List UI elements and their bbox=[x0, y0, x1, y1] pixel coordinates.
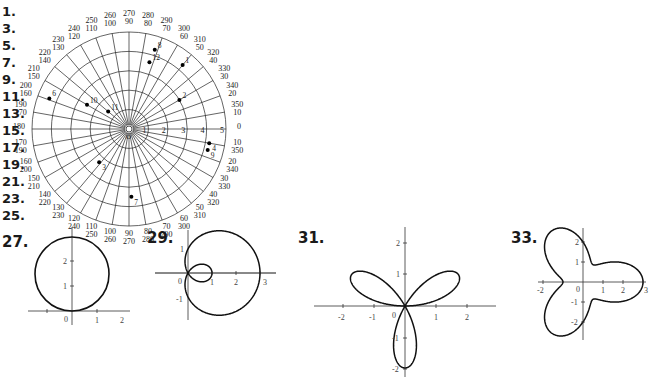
plotted-point bbox=[129, 195, 133, 199]
angle-label: 160200 bbox=[20, 157, 32, 174]
tick-label: 0 bbox=[178, 277, 182, 286]
svg-text:220: 220 bbox=[39, 198, 51, 207]
tick-label: 2 bbox=[63, 257, 67, 266]
angle-label: 28080 bbox=[142, 11, 154, 28]
svg-text:80: 80 bbox=[144, 19, 152, 28]
angle-label: 10350 bbox=[231, 138, 243, 155]
point-label: 2 bbox=[182, 91, 186, 100]
angle-label: 250110 bbox=[85, 16, 97, 33]
angle-label: 170190 bbox=[15, 138, 27, 155]
angle-label: 140220 bbox=[39, 190, 51, 207]
angle-label: 180 bbox=[13, 122, 25, 131]
angle-label: 29070 bbox=[161, 16, 173, 33]
svg-text:90: 90 bbox=[125, 17, 133, 26]
point-label: 7 bbox=[134, 198, 138, 207]
svg-text:50: 50 bbox=[196, 43, 204, 52]
radius-tick-label: 5 bbox=[220, 126, 224, 135]
point-label: 10 bbox=[90, 96, 98, 105]
svg-text:10: 10 bbox=[233, 108, 241, 117]
svg-text:160: 160 bbox=[20, 89, 32, 98]
tick-label: 2 bbox=[621, 286, 625, 295]
svg-text:40: 40 bbox=[209, 56, 217, 65]
tick-label: 2 bbox=[575, 238, 579, 247]
tick-label: -1 bbox=[392, 334, 399, 343]
plotted-point bbox=[177, 98, 181, 102]
svg-text:340: 340 bbox=[226, 165, 238, 174]
tick-label: 2 bbox=[120, 316, 124, 325]
point-label: 9 bbox=[211, 151, 215, 160]
svg-text:320: 320 bbox=[207, 198, 219, 207]
svg-text:200: 200 bbox=[20, 165, 32, 174]
svg-text:180: 180 bbox=[13, 122, 25, 131]
svg-text:130: 130 bbox=[52, 43, 64, 52]
plotted-point bbox=[207, 141, 211, 145]
angle-label: 0 bbox=[237, 122, 241, 131]
angle-label: 240120 bbox=[68, 24, 80, 41]
plotted-point bbox=[47, 96, 51, 100]
tick-label: -2 bbox=[338, 313, 345, 322]
svg-text:20: 20 bbox=[228, 89, 236, 98]
svg-text:70: 70 bbox=[163, 24, 171, 33]
angle-label: 34020 bbox=[226, 81, 238, 98]
plotted-point bbox=[153, 48, 157, 52]
plotted-point bbox=[147, 60, 151, 64]
angle-label: 220140 bbox=[39, 48, 51, 65]
svg-text:330: 330 bbox=[218, 182, 230, 191]
tick-label: -1 bbox=[369, 313, 376, 322]
svg-text:140: 140 bbox=[39, 56, 51, 65]
angle-label: 130230 bbox=[52, 203, 64, 220]
plotted-point bbox=[206, 148, 210, 152]
angle-label: 30330 bbox=[218, 174, 230, 191]
svg-text:120: 120 bbox=[68, 32, 80, 41]
svg-text:350: 350 bbox=[231, 146, 243, 155]
point-label: 3 bbox=[102, 163, 106, 172]
tick-label: 1 bbox=[575, 258, 579, 267]
tick-label: -2 bbox=[537, 286, 544, 295]
svg-text:230: 230 bbox=[52, 211, 64, 220]
angle-label: 150210 bbox=[28, 174, 40, 191]
tick-label: 2 bbox=[465, 313, 469, 322]
svg-text:30: 30 bbox=[220, 72, 228, 81]
tick-label: -1 bbox=[571, 298, 578, 307]
angle-label: 30060 bbox=[178, 24, 190, 41]
tick-label: 0 bbox=[576, 285, 580, 294]
point-label: 1 bbox=[186, 56, 190, 65]
svg-text:310: 310 bbox=[194, 211, 206, 220]
svg-text:170: 170 bbox=[15, 108, 27, 117]
svg-text:150: 150 bbox=[28, 72, 40, 81]
tick-label: 3 bbox=[644, 286, 648, 295]
angle-label: 210150 bbox=[28, 64, 40, 81]
tick-label: 1 bbox=[95, 316, 99, 325]
angle-label: 27090 bbox=[123, 9, 135, 26]
angle-label: 230130 bbox=[52, 35, 64, 52]
angle-label: 32040 bbox=[207, 48, 219, 65]
tick-label: 1 bbox=[63, 282, 67, 291]
figure-29-plot: 0 1 2 3 1 -1 bbox=[140, 225, 300, 355]
angle-label: 20340 bbox=[226, 157, 238, 174]
tick-label: 0 bbox=[64, 315, 68, 324]
plotted-point bbox=[97, 160, 101, 164]
tick-label: -2 bbox=[392, 365, 399, 374]
tick-label: 1 bbox=[396, 270, 400, 279]
svg-text:190: 190 bbox=[15, 146, 27, 155]
figure-33-plot: -2 0 1 2 3 2 1 -1 -2 bbox=[500, 225, 651, 355]
plotted-point bbox=[181, 63, 185, 67]
angle-label: 33030 bbox=[218, 64, 230, 81]
angle-label: 50310 bbox=[194, 203, 206, 220]
svg-text:110: 110 bbox=[86, 24, 98, 33]
tick-label: -1 bbox=[176, 295, 183, 304]
radius-tick-label: 2 bbox=[162, 126, 166, 135]
origin-label: O bbox=[126, 133, 131, 141]
figure-27-plot: 0 1 2 1 2 bbox=[0, 225, 140, 345]
tick-label: 2 bbox=[234, 278, 238, 287]
point-label: 6 bbox=[52, 89, 56, 98]
angle-label: 40320 bbox=[207, 190, 219, 207]
svg-text:100: 100 bbox=[104, 19, 116, 28]
plotted-point bbox=[85, 103, 89, 107]
point-label: 12 bbox=[152, 53, 160, 62]
tick-label: 2 bbox=[396, 239, 400, 248]
tick-label: -2 bbox=[571, 318, 578, 327]
radius-tick-label: 1 bbox=[142, 126, 146, 135]
angle-label: 200160 bbox=[20, 81, 32, 98]
radius-tick-label: 4 bbox=[201, 126, 205, 135]
